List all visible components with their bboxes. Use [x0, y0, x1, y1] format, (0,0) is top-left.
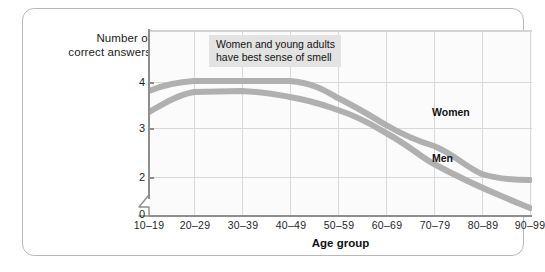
series-label-men: Men [432, 152, 453, 164]
series-line-men [149, 91, 530, 208]
series-line-women [149, 81, 530, 180]
x-axis-line [149, 215, 532, 217]
x-tick-label-30-39: 30–39 [228, 219, 259, 231]
plot-area: Women and young adults have best sense o… [149, 30, 532, 216]
y-tick-label-3: 3 [123, 122, 145, 134]
y-tick-mark-4 [149, 82, 154, 84]
annotation-line1: Women and young adults [216, 38, 335, 51]
annotation-line2: have best sense of smell [216, 51, 335, 64]
y-tick-label-2: 2 [123, 171, 145, 183]
annotation-callout: Women and young adults have best sense o… [209, 35, 341, 67]
y-axis-line [148, 29, 150, 199]
y-tick-label-4: 4 [123, 76, 145, 88]
x-tick-label-50-59: 50–59 [324, 219, 355, 231]
y-tick-mark-2 [149, 177, 154, 179]
x-tick-label-70-79: 70–79 [420, 219, 451, 231]
x-tick-label-10-19: 10–19 [134, 219, 165, 231]
x-tick-label-90-99: 90–99 [515, 219, 545, 231]
x-tick-label-40-49: 40–49 [276, 219, 307, 231]
y-tick-mark-3 [149, 128, 154, 130]
figure-card: Number of correct answers Women and youn… [22, 8, 524, 256]
x-axis-title: Age group [149, 237, 532, 249]
x-tick-labels: 10–19 20–29 30–39 40–49 50–59 60–69 70–7… [149, 219, 532, 237]
x-tick-label-60-69: 60–69 [372, 219, 403, 231]
x-tick-label-80-89: 80–89 [468, 219, 499, 231]
x-tick-label-20-29: 20–29 [180, 219, 211, 231]
series-label-women: Women [432, 106, 470, 118]
